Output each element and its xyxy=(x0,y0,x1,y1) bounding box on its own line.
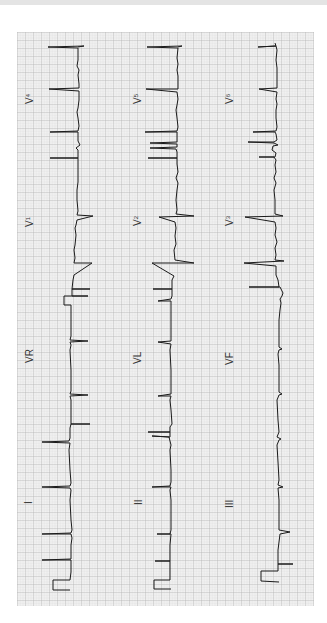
lead-label-VF: VF xyxy=(224,352,235,365)
ecg-grid xyxy=(17,32,314,606)
lead-label-I: I xyxy=(23,501,34,504)
lead-label-VL: VL xyxy=(132,351,143,364)
ecg-figure: I VR V1 V4 II VL V2 V5 III VF xyxy=(0,0,327,623)
lead-label-II: II xyxy=(133,499,144,505)
lead-label-III: III xyxy=(224,500,235,508)
lead-label-VR: VR xyxy=(24,349,35,363)
